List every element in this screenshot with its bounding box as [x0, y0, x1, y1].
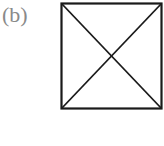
square-diagram — [0, 0, 164, 146]
